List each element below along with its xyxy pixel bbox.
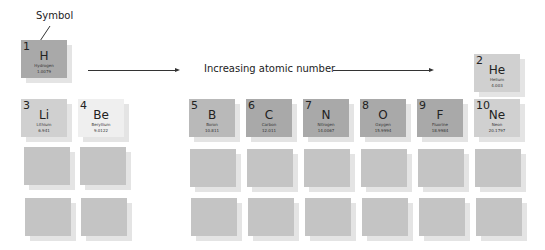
element-name: Fluorine [417,122,463,127]
element-name: Carbon [246,122,292,127]
element-symbol: O [360,108,406,122]
heading-increasing-atomic-number: Increasing atomic number [204,63,335,74]
element-name: Beryllium [78,122,124,127]
blank-tile [304,149,350,187]
atomic-mass: 9.0122 [78,128,124,133]
right-arrow-line [333,70,430,71]
element-tile-boron: 5 B Boron 10.811 [189,99,235,137]
element-tile-carbon: 6 C Carbon 12.011 [246,99,292,137]
blank-tile [80,147,126,185]
blank-tile [190,149,236,187]
blank-tile [362,198,408,236]
element-tile-neon: 10 Ne Neon 20.1797 [474,99,520,137]
blank-tile [476,198,522,236]
atomic-mass: 20.1797 [474,128,520,133]
element-name: Nitrogen [303,122,349,127]
atomic-mass: 14.0067 [303,128,349,133]
element-symbol: H [21,49,67,63]
blank-tile [475,149,521,187]
element-symbol: F [417,108,463,122]
element-symbol: He [474,63,520,77]
left-arrow-head-icon [175,68,180,72]
atomic-mass: 12.011 [246,128,292,133]
element-symbol: B [189,108,235,122]
blank-tile [81,198,127,236]
blank-tile [191,198,237,236]
element-tile-fluorine: 9 F Fluorine 18.9984 [417,99,463,137]
element-name: Helium [474,77,520,82]
element-name: Neon [474,122,520,127]
blank-tile [24,147,70,185]
atomic-mass: 10.811 [189,128,235,133]
element-symbol: Be [78,108,124,122]
element-name: Oxygen [360,122,406,127]
blank-tile [305,198,351,236]
right-arrow-head-icon [429,68,434,72]
atomic-mass: 15.9994 [360,128,406,133]
left-arrow-line [88,70,176,71]
element-symbol: N [303,108,349,122]
blank-tile [25,198,71,236]
element-tile-hydrogen: 1 H Hydrogen 1.0079 [21,40,67,78]
element-tile-nitrogen: 7 N Nitrogen 14.0067 [303,99,349,137]
atomic-mass: 18.9984 [417,128,463,133]
blank-tile [419,198,465,236]
element-symbol: Li [21,108,67,122]
element-name: Boron [189,122,235,127]
element-tile-helium: 2 He Helium 4.003 [474,54,520,92]
element-tile-oxygen: 8 O Oxygen 15.9994 [360,99,406,137]
blank-tile [248,198,294,236]
element-symbol: Ne [474,108,520,122]
blank-tile [361,149,407,187]
element-name: Lithium [21,122,67,127]
atomic-mass: 6.941 [21,128,67,133]
element-name: Hydrogen [21,63,67,68]
atomic-mass: 4.003 [474,83,520,88]
blank-tile [247,149,293,187]
element-tile-lithium: 3 Li Lithium 6.941 [21,99,67,137]
atomic-mass: 1.0079 [21,69,67,74]
element-tile-beryllium: 4 Be Beryllium 9.0122 [78,99,124,137]
blank-tile [418,149,464,187]
element-symbol: C [246,108,292,122]
